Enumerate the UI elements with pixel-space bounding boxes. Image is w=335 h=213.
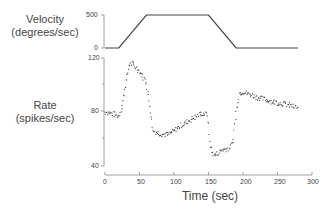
- axes: [101, 15, 312, 175]
- rate-points: [104, 60, 298, 156]
- chart-canvas: [0, 0, 335, 213]
- velocity-line: [105, 15, 298, 48]
